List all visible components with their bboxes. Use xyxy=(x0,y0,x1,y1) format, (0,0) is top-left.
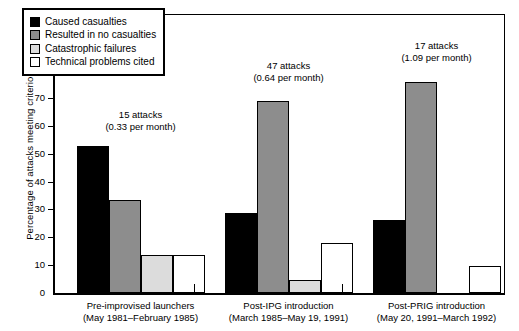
bar xyxy=(77,146,109,293)
bar xyxy=(373,220,405,292)
legend-swatch-icon xyxy=(30,57,40,67)
y-tick-mark xyxy=(48,182,53,183)
y-tick-label: 0 xyxy=(27,288,45,298)
legend-swatch-icon xyxy=(30,44,40,54)
y-tick-label: 40 xyxy=(27,177,45,187)
legend-item-label: Catastrophic failures xyxy=(45,44,136,54)
bar xyxy=(321,243,353,293)
legend-item: Caused casualties xyxy=(30,15,156,29)
x-category-label: Pre-improvised launchers(May 1981–Februa… xyxy=(61,300,221,324)
legend-item-label: Technical problems cited xyxy=(45,57,155,67)
group-annotation: 15 attacks(0.33 per month) xyxy=(81,109,201,132)
bar xyxy=(141,255,173,292)
y-tick-label: 20 xyxy=(27,232,45,242)
x-group-separator-tick xyxy=(194,284,195,293)
legend-item: Technical problems cited xyxy=(30,56,156,70)
x-category-line-1: Pre-improvised launchers xyxy=(61,300,221,312)
annotation-line-1: 47 attacks xyxy=(229,60,349,72)
y-tick-label: 50 xyxy=(27,149,45,159)
legend-item-label: Resulted in no casualties xyxy=(45,30,156,40)
annotation-line-2: (0.64 per month) xyxy=(229,72,349,84)
annotation-line-1: 15 attacks xyxy=(81,109,201,121)
y-tick-label: 60 xyxy=(27,121,45,131)
bar xyxy=(405,82,437,293)
x-category-line-2: (May 20, 1991–March 1992) xyxy=(357,312,517,324)
legend-swatch-icon xyxy=(30,17,40,27)
x-category-line-1: Post-PRIG introduction xyxy=(357,300,517,312)
legend-swatch-icon xyxy=(30,30,40,40)
legend-item: Catastrophic failures xyxy=(30,42,156,56)
y-tick-label: 70 xyxy=(27,94,45,104)
bar xyxy=(225,213,257,292)
legend-item: Resulted in no casualties xyxy=(30,29,156,43)
bar xyxy=(469,266,501,292)
y-tick-mark xyxy=(48,154,53,155)
group-annotation: 17 attacks(1.09 per month) xyxy=(377,40,497,63)
annotation-line-2: (1.09 per month) xyxy=(377,52,497,64)
bar xyxy=(257,101,289,292)
annotation-line-1: 17 attacks xyxy=(377,40,497,52)
x-group-separator-tick xyxy=(342,284,343,293)
x-category-line-1: Post-IPG introduction xyxy=(209,300,369,312)
x-category-line-2: (May 1981–February 1985) xyxy=(61,312,221,324)
y-tick-mark xyxy=(48,209,53,210)
y-tick-label: 30 xyxy=(27,205,45,215)
bar xyxy=(173,255,205,292)
annotation-line-2: (0.33 per month) xyxy=(81,121,201,133)
y-tick-mark xyxy=(48,126,53,127)
y-tick-mark xyxy=(48,265,53,266)
bar xyxy=(289,280,321,292)
y-tick-mark xyxy=(48,98,53,99)
x-category-label: Post-IPG introduction(March 1985–May 19,… xyxy=(209,300,369,324)
y-tick-mark xyxy=(48,237,53,238)
legend: Caused casualtiesResulted in no casualti… xyxy=(22,8,165,76)
legend-item-label: Caused casualties xyxy=(45,17,127,27)
group-annotation: 47 attacks(0.64 per month) xyxy=(229,60,349,83)
bar-chart-figure: Percentage of attacks meeting criterion … xyxy=(0,0,519,331)
x-category-label: Post-PRIG introduction(May 20, 1991–Marc… xyxy=(357,300,517,324)
y-tick-label: 10 xyxy=(27,260,45,270)
bar xyxy=(109,200,141,293)
x-category-line-2: (March 1985–May 19, 1991) xyxy=(209,312,369,324)
